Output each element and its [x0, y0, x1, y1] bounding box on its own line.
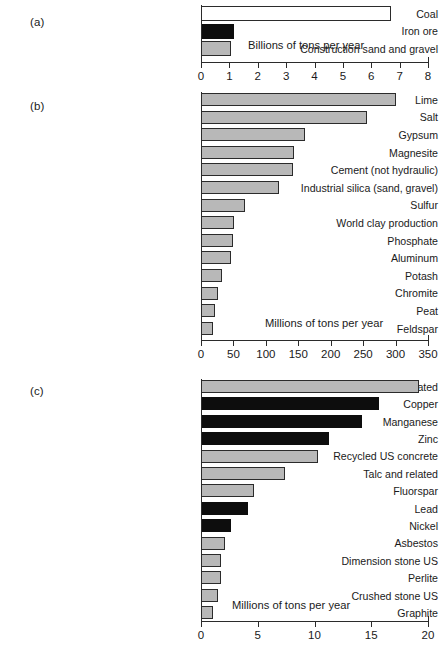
bar: [201, 537, 225, 550]
bar: [201, 432, 329, 445]
bar: [201, 571, 221, 584]
units-annotation: Millions of tons per year: [232, 600, 350, 611]
x-axis-tick-label: 5: [255, 630, 261, 642]
category-label: Nickel: [246, 521, 438, 532]
category-label: Perlite: [246, 573, 438, 584]
mineral-production-figure: (a)CoalIron oreConstruction sand and gra…: [0, 0, 442, 649]
x-axis-tick-label: 20: [422, 630, 435, 642]
category-label: Fluorspar: [246, 486, 438, 497]
bar: [201, 380, 419, 393]
bar: [201, 554, 221, 567]
bar: [201, 397, 379, 410]
panel-tag: (c): [30, 385, 44, 397]
bar: [201, 484, 254, 497]
x-axis-tick: [258, 622, 259, 627]
x-axis-tick-label: 15: [365, 630, 378, 642]
panel-c: (c)Pumice and relatedCopperManganeseZinc…: [0, 0, 442, 649]
category-label: Lead: [246, 504, 438, 515]
x-axis-end-cap: [428, 616, 429, 621]
bar: [201, 519, 231, 532]
x-axis-tick: [428, 622, 429, 627]
category-label: Asbestos: [246, 538, 438, 549]
bar: [201, 502, 248, 515]
category-label: Dimension stone US: [246, 556, 438, 567]
x-axis-tick: [371, 622, 372, 627]
bar: [201, 467, 285, 480]
x-axis-tick-label: 10: [308, 630, 321, 642]
x-axis-tick: [201, 622, 202, 627]
y-axis-spine: [201, 379, 202, 621]
bar: [201, 450, 318, 463]
x-axis-tick-label: 0: [198, 630, 204, 642]
bar: [201, 606, 213, 619]
bar: [201, 415, 362, 428]
x-axis-tick: [315, 622, 316, 627]
bar: [201, 589, 218, 602]
